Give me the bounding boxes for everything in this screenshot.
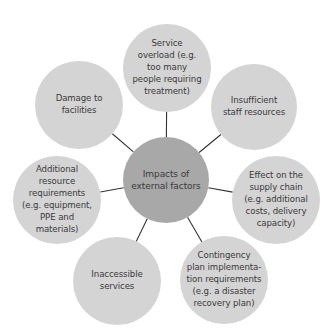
node-additional-resources: Additional resource requirements (e.g. e… [13,156,101,244]
connector-line [136,219,147,242]
node-label: Effect on the supply chain (e.g. additio… [244,170,307,229]
node-inaccessible-services: Inaccessible services [73,237,161,325]
node-label: Insufficient staff resources [223,95,285,119]
node-label: Contingency plan implementa- tion requir… [187,250,262,309]
node-supply-chain: Effect on the supply chain (e.g. additio… [232,156,320,244]
connector-line [208,188,232,192]
connector-line [112,134,133,152]
connector-line [199,134,221,152]
center-node: Impacts of external factors [123,137,209,223]
node-insufficient-staff: Insufficient staff resources [211,64,297,150]
node-label: Additional resource requirements (e.g. e… [22,164,92,235]
connector-line [188,217,202,242]
mind-map-diagram: Service overload (e.g. too many people r… [0,0,324,336]
center-label: Impacts of external factors [131,168,200,193]
node-damage-facilities: Damage to facilities [35,61,123,149]
connector-line [100,188,123,192]
node-label: Inaccessible services [91,269,142,293]
node-contingency-plan: Contingency plan implementa- tion requir… [180,236,268,324]
node-label: Damage to facilities [56,93,103,117]
node-service-overload: Service overload (e.g. too many people r… [123,24,211,112]
node-label: Service overload (e.g. too many people r… [132,38,201,97]
